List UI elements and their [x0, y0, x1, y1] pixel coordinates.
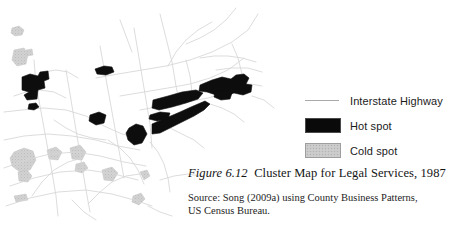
source-line-1: Source: Song (2009a) using County Busine…: [188, 192, 418, 203]
figure-caption: Figure 6.12 Cluster Map for Legal Servic…: [188, 166, 446, 181]
interstate-highway-line-icon: [305, 100, 339, 101]
hot-spot-swatch-icon: [305, 118, 341, 133]
legend-label-hot-spot: Hot spot: [350, 120, 392, 132]
caption-block: Figure 6.12 Cluster Map for Legal Servic…: [188, 166, 446, 217]
figure-title: Cluster Map for Legal Services, 1987: [248, 166, 446, 180]
figure-page: Interstate Highway Hot spot Cold spot Fi…: [0, 0, 449, 239]
legend-item-hot-spot: Hot spot: [305, 113, 449, 138]
figure-number: Figure 6.12: [188, 166, 248, 180]
cold-spot-region: [26, 49, 33, 56]
legend-label-cold-spot: Cold spot: [350, 145, 397, 157]
figure-title-text: Cluster Map for Legal Services, 1987: [254, 166, 446, 180]
source-note: Source: Song (2009a) using County Busine…: [188, 192, 446, 217]
legend-swatch-wrap: [305, 143, 343, 158]
legend-swatch-wrap: [305, 100, 343, 101]
legend-swatch-wrap: [305, 118, 343, 133]
legend-item-cold-spot: Cold spot: [305, 138, 449, 163]
legend-label-interstate-highway: Interstate Highway: [350, 95, 443, 107]
legend-item-interstate-highway: Interstate Highway: [305, 88, 449, 113]
cold-spot-swatch-icon: [305, 143, 341, 158]
map-legend: Interstate Highway Hot spot Cold spot: [305, 88, 449, 163]
source-line-2: US Census Bureau.: [188, 205, 270, 216]
